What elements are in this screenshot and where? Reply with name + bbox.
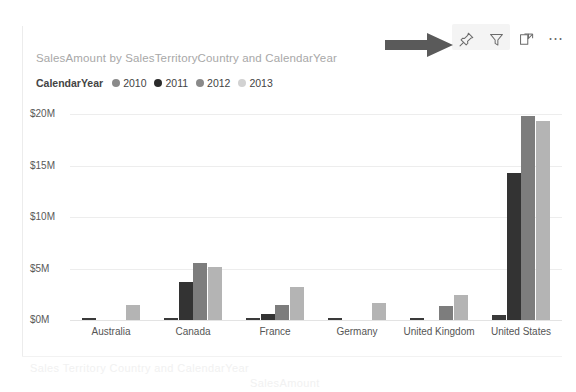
plot-area: AustraliaCanadaFranceGermanyUnited Kingd… — [70, 114, 562, 320]
bar[interactable] — [439, 306, 453, 320]
legend-swatch-2013 — [238, 79, 246, 87]
y-axis-tick-label: $5M — [30, 263, 66, 274]
x-axis-tick-label: Australia — [66, 326, 156, 338]
more-options-icon[interactable]: ⋯ — [548, 32, 565, 48]
y-axis-tick-label: $10M — [30, 211, 66, 222]
legend-title: CalendarYear — [36, 77, 103, 89]
bar[interactable] — [372, 303, 386, 321]
legend-item-2010[interactable]: 2010 — [112, 77, 146, 89]
bar[interactable] — [126, 305, 140, 320]
tile-bottom-border — [22, 356, 562, 357]
bar[interactable] — [507, 173, 521, 320]
legend-item-2013[interactable]: 2013 — [238, 77, 272, 89]
gridline — [70, 166, 562, 167]
bar[interactable] — [536, 121, 550, 320]
gridline — [70, 114, 562, 115]
bar-group — [410, 114, 468, 320]
bar-group — [492, 114, 550, 320]
y-axis-tick-label: $20M — [30, 108, 66, 119]
bar[interactable] — [410, 318, 424, 320]
bar[interactable] — [328, 318, 342, 320]
x-axis-tick-label: Germany — [312, 326, 402, 338]
legend-label-2010: 2010 — [123, 77, 146, 89]
tile-left-border — [22, 26, 23, 356]
bar[interactable] — [208, 267, 222, 320]
ghost-text-line2: SalesAmount — [250, 377, 320, 389]
bar[interactable] — [454, 295, 468, 320]
bar-group — [328, 114, 386, 320]
visual-toolbar[interactable]: ⋯ — [458, 31, 565, 48]
bar-group — [82, 114, 140, 320]
gridline — [70, 269, 562, 270]
legend-label-2011: 2011 — [165, 77, 188, 89]
bar-group — [246, 114, 304, 320]
chart-tile: Sales Territory Country and CalendarYear… — [0, 0, 576, 392]
pin-icon[interactable] — [458, 31, 475, 48]
bar[interactable] — [290, 287, 304, 320]
legend-item-2012[interactable]: 2012 — [196, 77, 230, 89]
bar[interactable] — [275, 305, 289, 320]
bar[interactable] — [82, 318, 96, 320]
x-axis-tick-label: Canada — [148, 326, 238, 338]
bar[interactable] — [492, 315, 506, 320]
ghost-text-line1: Sales Territory Country and CalendarYear — [30, 362, 249, 374]
bar[interactable] — [193, 263, 207, 320]
legend-swatch-2011 — [154, 79, 162, 87]
x-axis-tick-label: France — [230, 326, 320, 338]
bar[interactable] — [164, 318, 178, 320]
bar[interactable] — [521, 116, 535, 320]
y-axis-tick-label: $0M — [30, 314, 66, 325]
legend-swatch-2010 — [112, 79, 120, 87]
x-axis-tick-label: United Kingdom — [394, 326, 484, 338]
y-axis-tick-label: $15M — [30, 160, 66, 171]
x-axis-tick-label: United States — [476, 326, 566, 338]
legend-label-2012: 2012 — [207, 77, 230, 89]
gridline — [70, 217, 562, 218]
bar[interactable] — [261, 314, 275, 320]
focus-mode-icon[interactable] — [518, 31, 535, 48]
legend-swatch-2012 — [196, 79, 204, 87]
legend-label-2013: 2013 — [249, 77, 272, 89]
bar[interactable] — [246, 318, 260, 320]
x-axis-line — [70, 320, 562, 321]
bar-group — [164, 114, 222, 320]
legend-item-2011[interactable]: 2011 — [154, 77, 188, 89]
annotation-arrow — [385, 33, 453, 57]
filter-icon[interactable] — [488, 31, 505, 48]
bar[interactable] — [179, 282, 193, 320]
chart-legend: CalendarYear 2010 2011 2012 2013 — [36, 77, 281, 89]
chart-title: SalesAmount by SalesTerritoryCountry and… — [36, 52, 337, 64]
